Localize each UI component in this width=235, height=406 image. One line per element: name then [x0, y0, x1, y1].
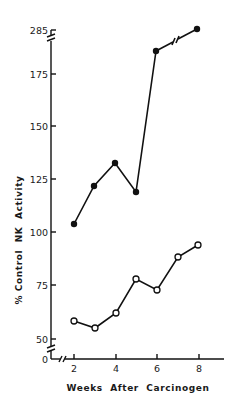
y-tick-175: 175 — [30, 69, 48, 80]
y-tick-0: 0 — [42, 354, 48, 365]
open-point-wk4 — [113, 310, 119, 316]
open-point-wk7 — [175, 254, 181, 260]
filled-point-wk8 — [194, 26, 200, 32]
filled-point-wk4 — [112, 160, 118, 166]
filled-point-wk2 — [71, 221, 77, 227]
x-tick-4: 4 — [113, 363, 119, 374]
series-open — [71, 242, 201, 331]
x-axis-title: Weeks After Carcinogen — [67, 383, 210, 393]
open-point-wk2 — [71, 318, 77, 324]
y-tick-125: 125 — [30, 174, 48, 185]
filled-point-wk6 — [153, 48, 159, 54]
y-axis-break-bottom — [47, 345, 55, 352]
x-tick-8: 8 — [196, 363, 202, 374]
x-tick-2: 2 — [71, 363, 77, 374]
series-filled — [71, 26, 200, 227]
x-axis: 2 4 6 8 — [51, 354, 224, 374]
open-point-wk3 — [92, 325, 98, 331]
y-tick-100: 100 — [30, 227, 48, 238]
filled-point-wk5 — [133, 189, 139, 195]
y-tick-50: 50 — [36, 334, 48, 345]
y-axis-title: % Control NK Activity — [14, 175, 24, 304]
y-tick-75: 75 — [36, 280, 48, 291]
y-tick-285: 285 — [30, 25, 48, 36]
y-axis-break-top — [47, 34, 55, 41]
x-tick-6: 6 — [154, 363, 160, 374]
x-axis-break — [59, 356, 66, 362]
nk-activity-chart: 285 175 150 125 100 75 50 0 2 4 6 8 Week… — [0, 0, 235, 406]
open-point-wk8 — [195, 242, 201, 248]
open-point-wk6 — [154, 287, 160, 293]
filled-point-wk3 — [91, 183, 97, 189]
open-point-wk5 — [133, 276, 139, 282]
y-tick-150: 150 — [30, 121, 48, 132]
series-line-break — [172, 36, 179, 45]
y-axis: 285 175 150 125 100 75 50 0 — [30, 25, 56, 365]
